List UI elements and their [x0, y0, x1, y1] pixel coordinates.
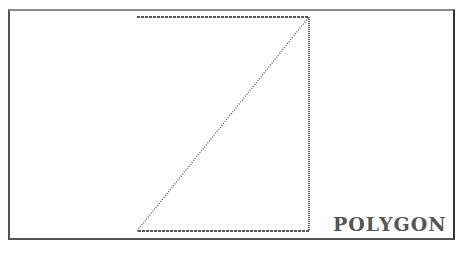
polygon-diagonal-edge [137, 17, 309, 231]
polygon-label: POLYGON [333, 213, 447, 235]
